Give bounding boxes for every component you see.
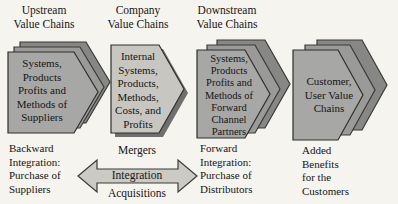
company-shape-line6: Profits <box>110 118 166 132</box>
downstream-header-line2: Value Chains <box>182 18 272 32</box>
upstream-header-line1: Upstream <box>0 4 88 18</box>
upstream-shape-line3: Profits and <box>9 84 75 98</box>
upstream-shape-line4: Methods of <box>9 98 75 112</box>
backward-caption-line3: Purchase of <box>9 169 61 183</box>
value-chain-diagram: Upstream Value Chains Company Value Chai… <box>0 0 398 204</box>
customer-shape-label: Customer, User Value Chains <box>294 75 364 116</box>
downstream-shape-line4: Methods of <box>198 90 260 102</box>
upstream-shape-line1: Systems, <box>9 57 75 71</box>
backward-caption-line1: Backward <box>9 142 61 156</box>
downstream-header: Downstream Value Chains <box>182 4 272 31</box>
company-shape-line4: Methods, <box>110 91 166 105</box>
upstream-header: Upstream Value Chains <box>0 4 88 31</box>
upstream-shape-line5: Suppliers <box>9 111 75 125</box>
added-caption-line4: Customers <box>302 185 349 199</box>
company-shape-line5: Costs, and <box>110 104 166 118</box>
customer-shape-line2: User Value <box>294 89 364 103</box>
added-caption-line1: Added <box>302 144 349 158</box>
customer-shape-line3: Chains <box>294 102 364 116</box>
upstream-shape-label: Systems, Products Profits and Methods of… <box>9 57 75 125</box>
mergers-label: Mergers <box>97 144 177 157</box>
added-caption-line2: Benefits <box>302 158 349 172</box>
company-shape-line2: Systems, <box>110 64 166 78</box>
downstream-shape-label: Systems, Products Profits and Methods of… <box>198 53 260 138</box>
company-shape-line3: Products, <box>110 77 166 91</box>
forward-caption-line3: Purchase of <box>200 169 253 183</box>
company-header: Company Value Chains <box>94 4 182 31</box>
downstream-shape-line6: Channel <box>198 114 260 126</box>
backward-caption-line4: Suppliers <box>9 183 61 197</box>
downstream-shape-line1: Systems, <box>198 53 260 65</box>
integration-label: Integration <box>97 169 177 182</box>
downstream-shape-line3: Profits and <box>198 77 260 89</box>
forward-caption-line1: Forward <box>200 142 253 156</box>
customer-shape-line1: Customer, <box>294 75 364 89</box>
downstream-shape-line5: Forward <box>198 102 260 114</box>
upstream-header-line2: Value Chains <box>0 18 88 32</box>
downstream-shape-line7: Partners <box>198 126 260 138</box>
upstream-shape-line2: Products <box>9 71 75 85</box>
company-shape-label: Internal Systems, Products, Methods, Cos… <box>110 50 166 131</box>
company-shape-line1: Internal <box>110 50 166 64</box>
company-header-line1: Company <box>94 4 182 18</box>
forward-caption-line4: Distributors <box>200 183 253 197</box>
acquisitions-label: Acquisitions <box>95 187 179 200</box>
backward-caption-line2: Integration: <box>9 156 61 170</box>
downstream-header-line1: Downstream <box>182 4 272 18</box>
backward-integration-caption: Backward Integration: Purchase of Suppli… <box>9 142 61 196</box>
company-header-line2: Value Chains <box>94 18 182 32</box>
added-benefits-caption: Added Benefits for the Customers <box>302 144 349 198</box>
downstream-shape-line2: Products <box>198 65 260 77</box>
added-caption-line3: for the <box>302 171 349 185</box>
forward-integration-caption: Forward Integration: Purchase of Distrib… <box>200 142 253 196</box>
forward-caption-line2: Integration: <box>200 156 253 170</box>
